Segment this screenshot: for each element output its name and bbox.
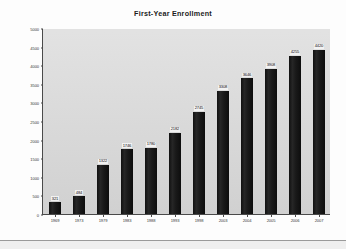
plot-area: 0500100015002000250030003500400045005000… [42, 29, 330, 215]
x-axis-tick-mark [319, 214, 320, 217]
bar-fill [97, 165, 109, 214]
x-axis-tick-label: 1983 [123, 218, 132, 223]
x-axis-tick-label: 1969 [51, 218, 60, 223]
x-axis-tick-mark [247, 214, 248, 217]
plot-inner: 0500100015002000250030003500400045005000… [43, 29, 330, 214]
y-axis-tick-mark [41, 84, 44, 85]
x-axis-tick-label: 2007 [315, 218, 324, 223]
x-axis-tick-label: 2003 [219, 218, 228, 223]
bar: 2182 [169, 133, 181, 214]
bar-fill [289, 56, 301, 214]
y-axis-tick-mark [41, 215, 44, 216]
y-axis-tick-mark [41, 47, 44, 48]
bar: 1780 [145, 148, 157, 214]
x-axis-tick-label: 1988 [147, 218, 156, 223]
bar-fill [193, 112, 205, 214]
bar-fill [217, 91, 229, 214]
bar: 3908 [265, 69, 277, 214]
bar: 4420 [313, 50, 325, 214]
bar-value-label: 1746 [122, 143, 132, 148]
bar-value-label: 4255 [290, 50, 300, 55]
x-axis-tick-mark [223, 214, 224, 217]
x-axis-tick-mark [79, 214, 80, 217]
x-axis-tick-label: 2005 [267, 218, 276, 223]
y-axis-tick-mark [41, 196, 44, 197]
x-axis-tick-label: 1979 [99, 218, 108, 223]
bottom-band [0, 241, 346, 249]
bar-value-label: 3908 [266, 63, 276, 68]
y-axis-tick-mark [41, 66, 44, 67]
x-axis-tick-label: 2004 [243, 218, 252, 223]
x-axis-tick-mark [175, 214, 176, 217]
bar-fill [169, 133, 181, 214]
bar-fill [145, 148, 157, 214]
bar: 2745 [193, 112, 205, 214]
bar-value-label: 2745 [194, 106, 204, 111]
bar-fill [121, 149, 133, 214]
bar-value-label: 4420 [314, 44, 324, 49]
x-axis-tick-mark [127, 214, 128, 217]
x-axis-tick-mark [103, 214, 104, 217]
bar: 321 [49, 202, 61, 214]
bar-fill [49, 202, 61, 214]
x-axis-tick-mark [271, 214, 272, 217]
y-axis-tick-mark [41, 159, 44, 160]
bar: 3308 [217, 91, 229, 214]
bar-fill [265, 69, 277, 214]
x-axis-tick-label: 1993 [171, 218, 180, 223]
x-axis-tick-label: 1998 [195, 218, 204, 223]
chart-page: First-Year Enrollment 050010001500200025… [0, 0, 346, 249]
y-axis-tick-mark [41, 177, 44, 178]
bar: 484 [73, 196, 85, 214]
bar: 3646 [241, 78, 253, 214]
bar-value-label: 3308 [218, 85, 228, 90]
chart-title: First-Year Enrollment [0, 9, 346, 18]
bar: 1746 [121, 149, 133, 214]
bar: 1322 [97, 165, 109, 214]
y-axis-tick-mark [41, 29, 44, 30]
x-axis-tick-mark [199, 214, 200, 217]
bar-fill [73, 196, 85, 214]
bar-value-label: 3646 [242, 73, 252, 78]
x-axis-tick-mark [151, 214, 152, 217]
bar-fill [241, 78, 253, 214]
x-axis-tick-mark [295, 214, 296, 217]
bar-value-label: 1780 [146, 142, 156, 147]
bar-fill [313, 50, 325, 214]
bar-value-label: 321 [51, 196, 59, 201]
bar-value-label: 1322 [98, 159, 108, 164]
x-axis-tick-label: 1973 [75, 218, 84, 223]
bar-value-label: 484 [75, 190, 83, 195]
bar: 4255 [289, 56, 301, 214]
x-axis-tick-mark [55, 214, 56, 217]
y-axis-tick-mark [41, 103, 44, 104]
y-axis-tick-mark [41, 140, 44, 141]
y-axis-tick-mark [41, 122, 44, 123]
x-axis-tick-label: 2006 [291, 218, 300, 223]
bar-value-label: 2182 [170, 127, 180, 132]
